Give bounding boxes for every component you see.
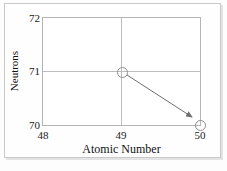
x-tick-48: 48	[28, 130, 58, 141]
y-axis-title: Neutrons	[8, 36, 20, 106]
chart-figure: 72 71 70 48 49 50 Atomic Number Neutrons	[0, 0, 227, 171]
x-axis-title: Atomic Number	[42, 142, 201, 157]
x-tick-50: 50	[185, 130, 215, 141]
x-tick-49: 49	[106, 130, 136, 141]
